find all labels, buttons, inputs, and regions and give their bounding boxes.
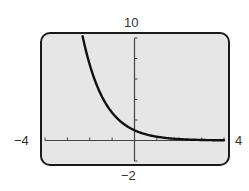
graph-screen (0, 0, 249, 191)
